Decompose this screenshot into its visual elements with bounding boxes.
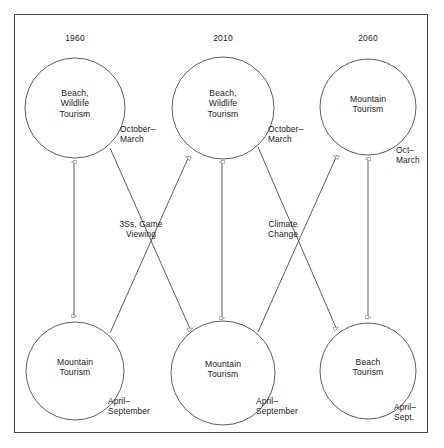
diagram-border bbox=[14, 14, 428, 433]
figure-canvas: 1960 2010 2060 Beach, Wildlife Tourism B… bbox=[0, 0, 444, 448]
